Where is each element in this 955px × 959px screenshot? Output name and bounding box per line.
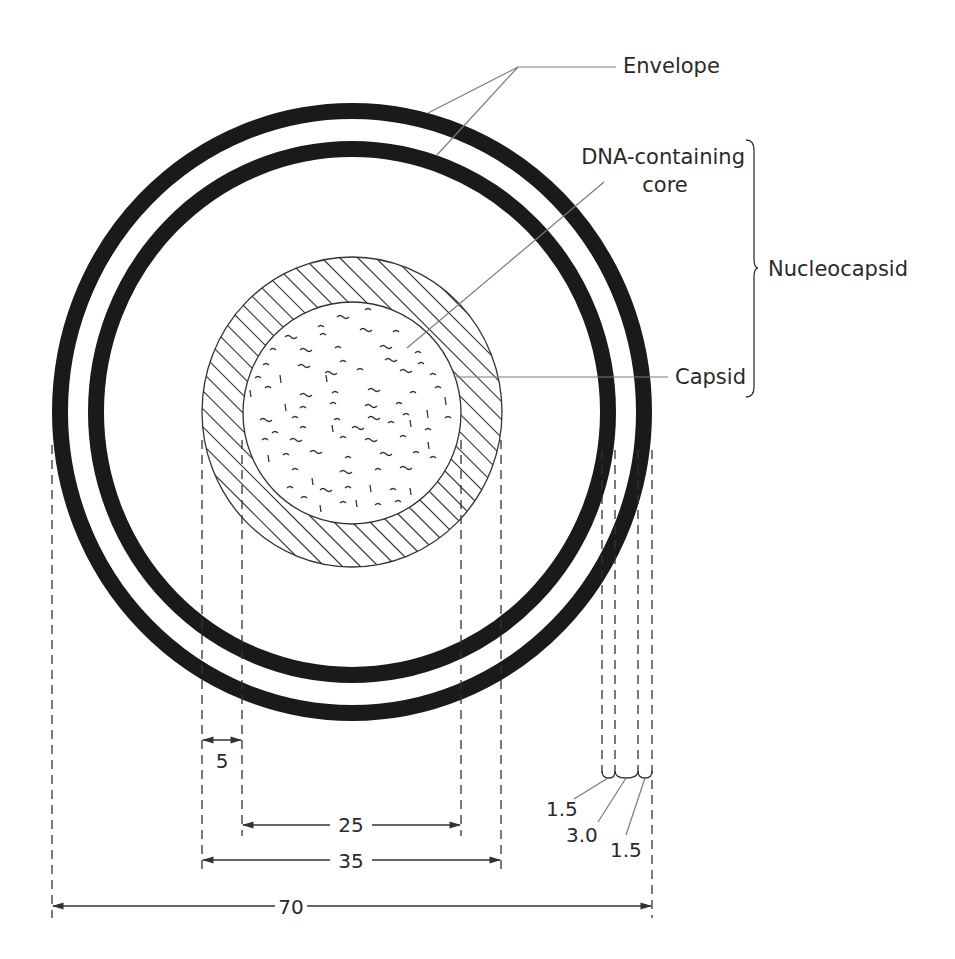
dim-total-diameter: 70 <box>53 895 651 919</box>
dna-squiggles <box>250 309 451 513</box>
svg-text:3.0: 3.0 <box>566 823 598 847</box>
envelope-leader <box>428 67 616 113</box>
envelope-inner-ring <box>96 149 608 675</box>
svg-text:5: 5 <box>216 749 229 773</box>
envelope-outer-ring <box>60 111 644 713</box>
envelope-rings <box>60 111 644 713</box>
core-circle <box>243 302 461 524</box>
dim-envelope-layers: 1.5 3.0 1.5 <box>546 771 652 862</box>
dim-capsid-thickness: 5 <box>203 740 241 773</box>
dim-capsid-diameter: 35 <box>203 849 500 873</box>
dim-core-diameter: 25 <box>243 813 460 837</box>
label-envelope: Envelope <box>623 54 720 78</box>
svg-text:1.5: 1.5 <box>546 797 578 821</box>
label-core-line1: DNA-containing <box>581 145 745 169</box>
svg-text:1.5: 1.5 <box>610 838 642 862</box>
label-core-line2: core <box>642 173 688 197</box>
label-nucleocapsid: Nucleocapsid <box>768 257 908 281</box>
virus-diagram: Envelope DNA-containing core Capsid Nucl… <box>0 0 955 959</box>
label-capsid: Capsid <box>675 365 746 389</box>
svg-text:25: 25 <box>338 813 363 837</box>
svg-text:35: 35 <box>338 849 363 873</box>
svg-text:70: 70 <box>278 895 303 919</box>
nucleocapsid-brace <box>746 140 758 397</box>
